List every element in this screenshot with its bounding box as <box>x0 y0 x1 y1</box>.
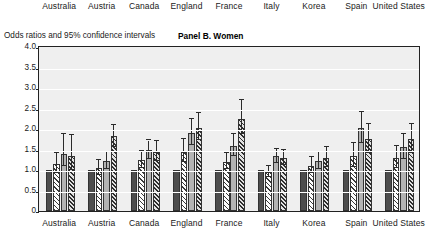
error-bar-cap <box>146 158 151 159</box>
error-bar-cap <box>239 133 244 134</box>
error-bar-cap <box>154 160 159 161</box>
bar <box>273 156 280 211</box>
bar <box>215 170 222 211</box>
error-bar-cap <box>69 169 74 170</box>
error-bar-cap <box>61 165 66 166</box>
bar <box>300 170 307 211</box>
y-axis-tick <box>36 171 39 172</box>
gridline <box>39 171 419 172</box>
error-bar-cap <box>351 142 356 143</box>
y-tick-label: 0.5 <box>25 187 36 195</box>
y-tick-label: 2.5 <box>25 105 36 113</box>
error-bar-cap <box>181 161 186 162</box>
error-bar-cap <box>189 144 194 145</box>
error-bar-cap <box>274 162 279 163</box>
error-bar-cap <box>316 168 321 169</box>
error-bar-cap <box>359 111 364 112</box>
bar <box>343 170 350 211</box>
error-bar <box>353 143 354 166</box>
y-tick-label: 1.5 <box>25 146 36 154</box>
error-bar <box>71 135 72 170</box>
top-country-label-strip: AustraliaAustriaCanadaEnglandFranceItaly… <box>0 0 426 16</box>
error-bar-cap <box>111 146 116 147</box>
error-bar-cap <box>409 123 414 124</box>
error-bar-cap <box>146 139 151 140</box>
error-bar <box>113 125 114 148</box>
gridline <box>39 130 419 131</box>
error-bar-cap <box>309 156 314 157</box>
bar-group <box>379 47 421 211</box>
error-bar <box>368 124 369 153</box>
bar <box>88 170 95 211</box>
x-tick-label: United States <box>359 218 426 228</box>
error-bar-cap <box>96 159 101 160</box>
error-bar <box>241 100 242 134</box>
bar-group <box>124 47 166 211</box>
error-bar-cap <box>139 167 144 168</box>
error-bar-cap <box>366 123 371 124</box>
x-axis-labels: AustraliaAustriaCanadaEnglandFranceItaly… <box>0 218 426 234</box>
error-bar <box>283 150 284 165</box>
bar <box>280 158 287 211</box>
y-axis-tick <box>36 48 39 49</box>
error-bar <box>191 119 192 146</box>
y-tick-label: 4.0 <box>25 43 36 51</box>
error-bar-cap <box>61 133 66 134</box>
error-bar-cap <box>196 112 201 113</box>
y-axis-tick <box>36 151 39 152</box>
top-country-label: United States <box>359 1 426 11</box>
bar <box>46 170 53 211</box>
bar-group <box>166 47 208 211</box>
error-bar-cap <box>224 168 229 169</box>
gridline <box>39 89 419 90</box>
error-bar <box>318 152 319 170</box>
bar <box>385 170 392 211</box>
error-bar <box>98 160 99 175</box>
bar-group <box>251 47 293 211</box>
error-bar-cap <box>409 152 414 153</box>
bars-layer <box>39 47 419 211</box>
error-bar-cap <box>96 174 101 175</box>
bar <box>258 170 265 211</box>
gridline <box>39 110 419 111</box>
error-bar-cap <box>231 133 236 134</box>
y-axis-tick <box>36 110 39 111</box>
error-bar-cap <box>281 164 286 165</box>
y-axis-tick <box>36 89 39 90</box>
y-tick-label: 3.5 <box>25 64 36 72</box>
error-bar-cap <box>189 118 194 119</box>
bar-group <box>209 47 251 211</box>
y-axis-tick <box>36 69 39 70</box>
error-bar-cap <box>231 155 236 156</box>
error-bar-cap <box>239 99 244 100</box>
error-bar-cap <box>266 176 271 177</box>
error-bar-cap <box>394 145 399 146</box>
error-bar <box>198 113 199 140</box>
y-tick-label: 3.0 <box>25 84 36 92</box>
bar <box>111 136 118 211</box>
y-axis-tick <box>36 130 39 131</box>
error-bar <box>226 153 227 169</box>
error-bar-cap <box>266 165 271 166</box>
error-bar-cap <box>104 168 109 169</box>
error-bar-cap <box>401 158 406 159</box>
bar <box>196 128 203 211</box>
y-axis-tick <box>36 212 39 213</box>
error-bar <box>411 124 412 153</box>
error-bar-cap <box>324 166 329 167</box>
bar-group <box>294 47 336 211</box>
y-axis-labels: 00.51.01.52.02.53.03.54.0 <box>0 40 36 236</box>
error-bar-cap <box>69 134 74 135</box>
error-bar <box>141 151 142 168</box>
y-tick-label: 2.0 <box>25 125 36 133</box>
plot-frame <box>38 46 420 212</box>
gridline <box>39 151 419 152</box>
error-bar-cap <box>224 152 229 153</box>
error-bar-cap <box>196 139 201 140</box>
axis-caption: Odds ratios and 95% confidence intervals <box>4 31 155 40</box>
error-bar-cap <box>401 133 406 134</box>
error-bar <box>396 146 397 168</box>
bar <box>131 170 138 211</box>
bar-group <box>81 47 123 211</box>
error-bar-cap <box>54 172 59 173</box>
